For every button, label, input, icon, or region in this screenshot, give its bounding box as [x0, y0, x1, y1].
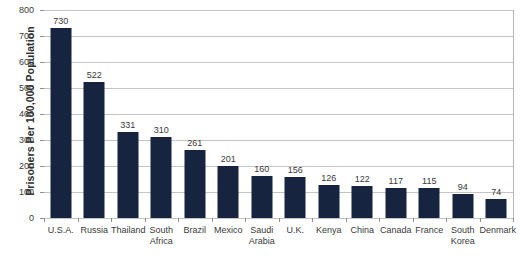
- bar-group: 126: [312, 10, 346, 218]
- y-tick-label: 500: [0, 84, 34, 93]
- y-tick-label: 700: [0, 32, 34, 41]
- bar-value-label: 117: [389, 176, 403, 186]
- bar-group: 310: [145, 10, 179, 218]
- x-tick-mark: [446, 218, 447, 222]
- bar-value-label: 522: [87, 70, 102, 80]
- x-axis-label: Russia: [78, 225, 112, 236]
- x-tick-mark: [111, 218, 112, 222]
- bar-value-label: 201: [221, 154, 236, 164]
- x-axis-label: Thailand: [111, 225, 145, 236]
- bar-value-label: 74: [491, 187, 501, 197]
- x-axis-label: Denmark: [480, 225, 514, 236]
- x-tick-mark: [480, 218, 481, 222]
- x-axis-label: Brazil: [178, 225, 212, 236]
- x-tick-mark: [78, 218, 79, 222]
- bar: [452, 194, 473, 218]
- bar-value-label: 160: [254, 164, 269, 174]
- x-axis-label: Saudi Arabia: [245, 225, 279, 246]
- x-axis: U.S.A.RussiaThailandSouth AfricaBrazilMe…: [44, 218, 513, 259]
- bar: [218, 166, 239, 218]
- bar: [251, 176, 272, 218]
- bar-value-label: 310: [154, 125, 169, 135]
- x-axis-label: Kenya: [312, 225, 346, 236]
- bar: [117, 132, 138, 218]
- plot-area: 7305223313102612011601561261221171159474: [44, 10, 514, 218]
- x-tick-mark: [178, 218, 179, 222]
- bar-value-label: 261: [187, 138, 202, 148]
- bar-group: 201: [212, 10, 246, 218]
- x-tick-mark: [379, 218, 380, 222]
- x-axis-label: Canada: [379, 225, 413, 236]
- bar-group: 94: [446, 10, 480, 218]
- bar-group: 331: [111, 10, 145, 218]
- x-tick-mark: [44, 218, 45, 222]
- bar: [84, 82, 105, 218]
- bar: [486, 199, 507, 218]
- y-tick-label: 300: [0, 136, 34, 145]
- bar: [318, 185, 339, 218]
- bar-group: 122: [346, 10, 380, 218]
- bar-value-label: 730: [53, 16, 68, 26]
- x-axis-label: U.S.A.: [44, 225, 78, 236]
- bar-value-label: 122: [355, 174, 370, 184]
- bar-group: 156: [279, 10, 313, 218]
- bar-group: 730: [44, 10, 78, 218]
- y-tick-label: 800: [0, 6, 34, 15]
- bar: [184, 150, 205, 218]
- x-tick-mark: [413, 218, 414, 222]
- bar-value-label: 156: [288, 165, 303, 175]
- bar: [285, 177, 306, 218]
- bar-group: 261: [178, 10, 212, 218]
- y-tick-label: 600: [0, 58, 34, 67]
- y-tick-label: 100: [0, 188, 34, 197]
- bar: [352, 186, 373, 218]
- y-tick-label: 0: [0, 214, 34, 223]
- x-axis-label: South Korea: [446, 225, 480, 246]
- bar: [385, 188, 406, 218]
- bar: [419, 188, 440, 218]
- prisoners-per-capita-bar-chart: Prisoners Per 100,000 Population 0100200…: [0, 0, 524, 259]
- bar-group: 522: [78, 10, 112, 218]
- x-tick-mark: [513, 218, 514, 222]
- x-axis-label: China: [346, 225, 380, 236]
- bar-value-label: 126: [321, 173, 336, 183]
- x-axis-label: Mexico: [212, 225, 246, 236]
- bar-group: 115: [413, 10, 447, 218]
- x-tick-mark: [245, 218, 246, 222]
- x-axis-label: South Africa: [145, 225, 179, 246]
- bar: [50, 28, 71, 218]
- bar: [151, 137, 172, 218]
- x-tick-mark: [312, 218, 313, 222]
- bar-group: 117: [379, 10, 413, 218]
- bar-group: 74: [480, 10, 514, 218]
- y-tick-label: 400: [0, 110, 34, 119]
- x-axis-label: U.K.: [279, 225, 313, 236]
- x-tick-mark: [346, 218, 347, 222]
- bar-value-label: 331: [120, 120, 135, 130]
- bar-value-label: 115: [422, 176, 436, 186]
- y-tick-label: 200: [0, 162, 34, 171]
- bar-value-label: 94: [458, 182, 468, 192]
- x-tick-mark: [212, 218, 213, 222]
- x-tick-mark: [145, 218, 146, 222]
- bar-group: 160: [245, 10, 279, 218]
- x-tick-mark: [279, 218, 280, 222]
- x-axis-label: France: [413, 225, 447, 236]
